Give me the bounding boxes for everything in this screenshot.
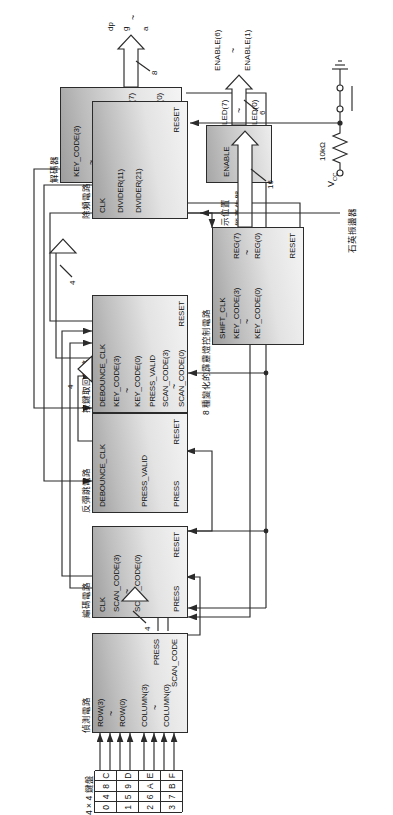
scancode-bus-width: 4 bbox=[143, 627, 152, 631]
block-enable-generator bbox=[206, 125, 272, 183]
key-fetch-tilde-1: ~ bbox=[122, 388, 132, 393]
detect-pin-row0: ROW(0) bbox=[118, 699, 127, 727]
debounce-pin-debounce-clk: DEBOUNCE_CLK bbox=[98, 444, 107, 507]
signal-enable1: ENABLE(1) bbox=[243, 30, 252, 71]
block-led-control-title: 8 種變化的霹靂燈控制電路 bbox=[199, 309, 211, 415]
key-fetch-pin-reset: RESET bbox=[177, 301, 186, 383]
keypad-key[interactable]: A bbox=[139, 781, 161, 792]
keypad-key[interactable]: 1 bbox=[117, 802, 139, 813]
block-encoder-title: 編碼電路 bbox=[79, 582, 91, 618]
keypad-key[interactable]: 4 bbox=[95, 791, 117, 802]
block-debounce-title: 反彈跳電路 bbox=[79, 468, 91, 513]
led-control-pin-reg0: REG(0) bbox=[253, 233, 262, 323]
debounce-pin-press: PRESS bbox=[172, 481, 181, 507]
debounce-pin-reset: RESET bbox=[172, 419, 181, 483]
keypad-grid[interactable]: 0 4 8 C 1 5 9 D 2 6 A E 3 7 B F bbox=[94, 771, 182, 813]
signal-g: g bbox=[121, 27, 130, 31]
oscillator-label: 石英振盪器 bbox=[345, 208, 357, 253]
led-control-pin-shift-clk: SHIFT_CLK bbox=[218, 298, 227, 339]
encoder-pin-scancode3: SCAN_CODE(3) bbox=[112, 555, 121, 612]
signal-enable-tilde: ~ bbox=[228, 48, 238, 53]
divider-pin-reset: RESET bbox=[172, 107, 181, 193]
encoder-pin-press: PRESS bbox=[172, 586, 181, 612]
block-divider-title: 除頻電路 bbox=[79, 183, 91, 219]
encoder-pin-reset: RESET bbox=[172, 532, 181, 588]
key-fetch-pin-press-valid: PRESS_VALID bbox=[148, 355, 157, 407]
keypad-key[interactable]: 9 bbox=[117, 781, 139, 792]
detect-pin-press: PRESS bbox=[152, 639, 161, 717]
key-fetch-pin-keycode0: KEY_CODE(0) bbox=[133, 356, 142, 407]
keycode-bus-width: 4 bbox=[68, 281, 77, 285]
led-control-tilde-2: ~ bbox=[242, 250, 252, 255]
keypad-label: 4 × 4 鍵盤 bbox=[82, 775, 94, 815]
detect-pin-scancode: SCAN_CODE bbox=[170, 639, 179, 717]
signal-enable6: ENABLE(6) bbox=[213, 30, 222, 71]
led-control-tilde-1: ~ bbox=[242, 319, 252, 324]
block-decoder-title: 解碼器 bbox=[47, 156, 59, 183]
decoder-pin-keycode3: KEY_CODE(3) bbox=[72, 126, 81, 177]
keypad-key[interactable]: 6 bbox=[139, 791, 161, 802]
keypad-key[interactable]: 8 bbox=[95, 781, 117, 792]
signal-a: a bbox=[141, 27, 150, 31]
signal-led0: LED(0) bbox=[250, 100, 259, 125]
keypad-key[interactable]: 5 bbox=[117, 791, 139, 802]
divider-pin-clk: CLK bbox=[98, 198, 107, 213]
signal-led7: LED(7) bbox=[220, 100, 229, 125]
keypad-key[interactable]: E bbox=[139, 770, 161, 781]
keypad-key[interactable]: 3 bbox=[161, 802, 183, 813]
keypad-key[interactable]: 2 bbox=[139, 802, 161, 813]
encoder-pin-scancode0: SCAN_CODE(0) bbox=[133, 555, 142, 612]
block-detect-title: 偵測電路 bbox=[79, 697, 91, 733]
keypad-key[interactable]: B bbox=[161, 781, 183, 792]
key-fetch-pin-debounce-clk: DEBOUNCE_CLK bbox=[98, 344, 107, 407]
led-control-pin-reg7: REG(7) bbox=[232, 233, 241, 323]
enable-generator-line1: ENABLE bbox=[222, 147, 231, 177]
divider-pin-divider21: DIVIDER(21) bbox=[134, 169, 143, 213]
vcc-label: VCC bbox=[326, 172, 338, 187]
signal-led-tilde: ~ bbox=[234, 108, 244, 113]
decoder-bus-width: 8 bbox=[150, 71, 159, 75]
key-fetch-pin-keycode3: KEY_CODE(3) bbox=[112, 356, 121, 407]
keypad-key[interactable]: 0 bbox=[95, 802, 117, 813]
enable-bus-width: 6 bbox=[258, 111, 267, 115]
signal-seg-tilde: ~ bbox=[128, 15, 138, 20]
keypad-key[interactable]: C bbox=[95, 770, 117, 781]
resistor-value: 10kΩ bbox=[318, 142, 327, 161]
encoder-pin-clk: CLK bbox=[98, 597, 107, 612]
key-fetch-pin-scancode3: SCAN_CODE(3) bbox=[161, 350, 170, 407]
keypad-key[interactable]: 7 bbox=[161, 791, 183, 802]
vcc-text: V bbox=[326, 181, 336, 187]
divider-pin-divider11: DIVIDER(11) bbox=[116, 169, 125, 213]
keypad-key[interactable]: F bbox=[161, 770, 183, 781]
vcc-subscript: CC bbox=[332, 172, 338, 181]
scancode-bus-width-2: 4 bbox=[66, 385, 75, 389]
encoder-tilde: ~ bbox=[122, 589, 132, 594]
debounce-pin-press-valid: PRESS_VALID bbox=[140, 455, 149, 507]
enable-generator-line2: “ 111110 ” bbox=[243, 145, 252, 177]
detect-pin-row3: ROW(3) bbox=[96, 699, 105, 727]
signal-dp: dp bbox=[106, 22, 115, 31]
detect-tilde-row: ~ bbox=[106, 711, 116, 716]
led-bus-width: 16 bbox=[266, 180, 275, 189]
keypad-key[interactable]: D bbox=[117, 770, 139, 781]
detect-pin-column3: COLUMN(3) bbox=[140, 684, 149, 727]
block-key-fetch-title: 按鍵取回電路 bbox=[79, 359, 91, 413]
led-control-pin-reset: RESET bbox=[288, 233, 297, 323]
